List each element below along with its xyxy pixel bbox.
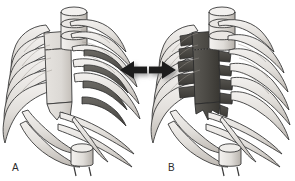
- vertebrae-b: [209, 7, 235, 50]
- cartilage-l1: [180, 34, 193, 46]
- thorax-b: [151, 7, 290, 176]
- sternal-body-b: [193, 48, 220, 104]
- thorax-a: [3, 7, 140, 176]
- panel-a-label: A: [12, 163, 19, 173]
- rib-cage-figure: A: [0, 0, 295, 181]
- panel-b-label: B: [168, 163, 175, 173]
- vertebrae-a: [61, 7, 87, 50]
- lumbar-stub-a: [71, 144, 93, 176]
- cartilage-l3: [178, 60, 195, 72]
- cartilage-r6: [220, 105, 228, 117]
- panel-b: B: [148, 0, 295, 181]
- panel-b-illustration: [148, 0, 295, 181]
- lumbar-stub-b: [219, 144, 241, 176]
- cartilage-l2: [179, 47, 194, 59]
- panel-a-illustration: [0, 0, 147, 181]
- cartilage-l4: [178, 73, 196, 85]
- panel-a: A: [0, 0, 147, 181]
